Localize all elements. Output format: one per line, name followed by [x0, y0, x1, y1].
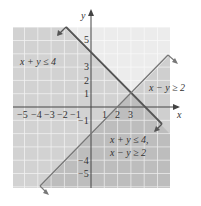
x-tick-neg2: −2 [57, 110, 68, 120]
x-tick-3: 3 [128, 110, 133, 120]
y-tick-1: 1 [84, 89, 89, 99]
label-intersection-2: x − y ≥ 2 [110, 148, 146, 158]
label-x-plus-y: x + y ≤ 4 [20, 57, 56, 67]
y-tick-neg5: −5 [78, 169, 89, 179]
label-x-minus-y: x − y ≥ 2 [149, 83, 185, 93]
label-intersection-1: x + y ≤ 4, [110, 135, 149, 145]
x-tick-1: 1 [102, 110, 107, 120]
y-tick-neg4: −4 [78, 156, 89, 166]
x-tick-2: 2 [115, 110, 120, 120]
x-tick-neg4: −4 [31, 110, 42, 120]
graph [0, 0, 201, 206]
y-tick-2: 2 [84, 76, 89, 86]
y-tick-3: 3 [84, 62, 89, 72]
y-axis-label: y [81, 11, 85, 21]
x-tick-neg5: −5 [17, 110, 28, 120]
y-tick-5: 5 [84, 35, 89, 45]
x-tick-neg1: −1 [70, 110, 81, 120]
x-tick-neg3: −3 [44, 110, 55, 120]
x-axis-label: x [177, 110, 181, 120]
y-axis-arrow [88, 9, 94, 16]
